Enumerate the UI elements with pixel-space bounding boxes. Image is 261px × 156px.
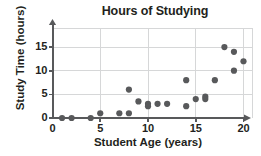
data-point xyxy=(88,115,94,121)
data-point xyxy=(154,101,160,107)
data-point xyxy=(97,110,103,116)
x-tick-label: 20 xyxy=(234,122,254,134)
x-tick-label: 10 xyxy=(138,122,158,134)
data-point xyxy=(231,68,237,74)
data-point xyxy=(202,96,208,102)
data-point xyxy=(193,96,199,102)
x-tick-label: 15 xyxy=(186,122,206,134)
data-point xyxy=(183,103,189,109)
data-point xyxy=(145,103,151,109)
scatter-plot-figure: Hours of Studying Study Time (hours) Stu… xyxy=(0,0,261,156)
data-points xyxy=(59,44,247,121)
data-point xyxy=(164,101,170,107)
gridlines xyxy=(53,28,253,118)
data-point xyxy=(126,110,132,116)
data-point xyxy=(240,58,246,64)
x-tick-label: 5 xyxy=(90,122,110,134)
data-point xyxy=(59,115,65,121)
data-point xyxy=(126,87,132,93)
y-tick-label: 15 xyxy=(24,40,48,52)
x-tick-label: 0 xyxy=(43,122,63,134)
data-point xyxy=(221,44,227,50)
data-point xyxy=(183,77,189,83)
y-axis-arrowhead xyxy=(49,19,56,25)
data-point xyxy=(69,115,75,121)
y-tick-label: 10 xyxy=(24,64,48,76)
data-point xyxy=(212,77,218,83)
plot-area xyxy=(0,0,261,156)
data-point xyxy=(231,49,237,55)
y-tick-label: 5 xyxy=(24,87,48,99)
data-point xyxy=(135,98,141,104)
x-axis-arrowhead xyxy=(244,114,251,121)
data-point xyxy=(116,110,122,116)
axis-tick-marks xyxy=(49,47,244,121)
